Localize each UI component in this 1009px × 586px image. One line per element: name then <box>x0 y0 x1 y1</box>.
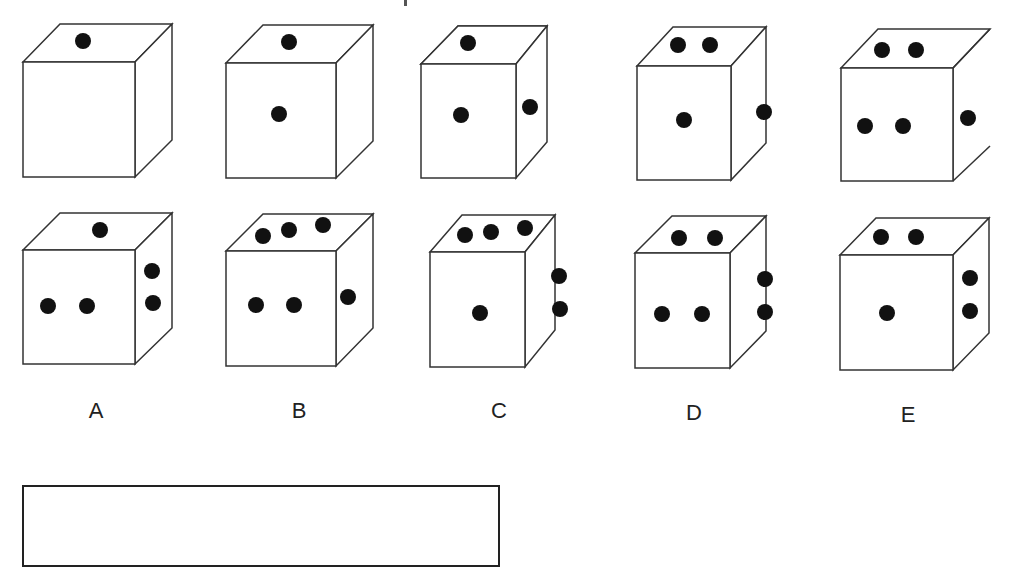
pip-dot <box>457 227 473 243</box>
pip-dot <box>654 306 670 322</box>
option-cube-e[interactable] <box>839 217 999 381</box>
pip-dot <box>874 42 890 58</box>
pip-dot <box>694 306 710 322</box>
pip-dot <box>453 107 469 123</box>
option-cube-c[interactable] <box>429 214 589 378</box>
pip-dot <box>517 220 533 236</box>
pip-dot <box>248 297 264 313</box>
pip-dot <box>702 37 718 53</box>
pip-dot <box>552 301 568 317</box>
pip-dot <box>908 42 924 58</box>
pip-dot <box>908 229 924 245</box>
pip-dot <box>483 224 499 240</box>
pip-dot <box>879 305 895 321</box>
pip-dot <box>40 298 56 314</box>
answer-box[interactable] <box>22 485 500 567</box>
pip-dot <box>472 305 488 321</box>
sequence-cube-3 <box>420 25 580 189</box>
option-cube-d[interactable] <box>634 215 794 379</box>
pip-dot <box>281 34 297 50</box>
pip-dot <box>707 230 723 246</box>
pip-dot <box>757 271 773 287</box>
option-cube-a[interactable] <box>22 212 182 376</box>
pip-dot <box>145 295 161 311</box>
pip-dot <box>960 110 976 126</box>
pip-dot <box>676 112 692 128</box>
pip-dot <box>757 304 773 320</box>
pip-dot <box>315 217 331 233</box>
option-label-d: D <box>674 400 714 426</box>
pip-dot <box>144 263 160 279</box>
sequence-cube-5 <box>840 28 1000 192</box>
pip-dot <box>281 222 297 238</box>
option-label-a: A <box>76 398 116 424</box>
pip-dot <box>79 298 95 314</box>
option-cube-b[interactable] <box>225 212 385 376</box>
pip-dot <box>670 37 686 53</box>
pip-dot <box>255 228 271 244</box>
sequence-cube-2 <box>225 23 385 187</box>
pip-dot <box>75 33 91 49</box>
pip-dot <box>271 106 287 122</box>
option-label-e: E <box>888 402 928 428</box>
option-label-c: C <box>479 398 519 424</box>
pip-dot <box>671 230 687 246</box>
pip-dot <box>460 35 476 51</box>
pip-dot <box>92 222 108 238</box>
pip-dot <box>340 289 356 305</box>
pip-dot <box>895 118 911 134</box>
pip-dot <box>756 104 772 120</box>
cropped-text-fragment <box>404 0 407 6</box>
pip-dot <box>522 99 538 115</box>
option-label-b: B <box>279 398 319 424</box>
pip-dot <box>962 303 978 319</box>
sequence-cube-4 <box>636 26 796 190</box>
pip-dot <box>551 268 567 284</box>
pip-dot <box>873 229 889 245</box>
pip-dot <box>857 118 873 134</box>
pip-dot <box>286 297 302 313</box>
sequence-cube-1 <box>22 22 182 186</box>
pip-dot <box>962 270 978 286</box>
